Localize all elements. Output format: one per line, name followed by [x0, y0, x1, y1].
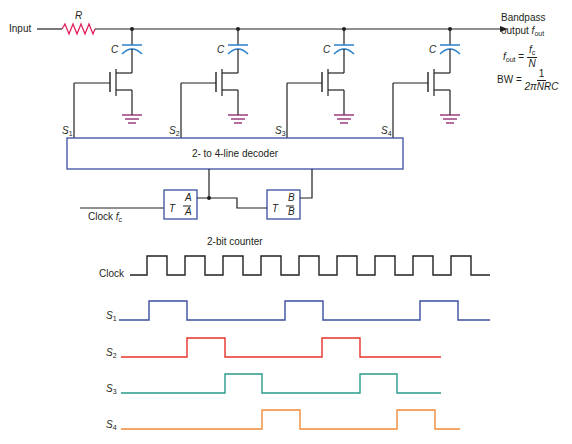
timing-diagram [119, 256, 490, 429]
ffb-t-label: T [272, 204, 278, 214]
ffa-t-label: T [169, 204, 175, 214]
input-label: Input [9, 24, 31, 34]
waveform-s1 [119, 301, 490, 320]
decoder-label: 2- to 4-line decoder [67, 149, 403, 159]
timing-label-s4: S4 [106, 420, 117, 431]
capacitor-label-3: C [323, 45, 330, 55]
stage-4 [393, 27, 460, 138]
select-label-2: S2 [169, 126, 180, 137]
waveform-clock [130, 256, 490, 275]
select-label-1: S1 [62, 126, 73, 137]
resistor-label: R [75, 11, 82, 21]
output-label-line2: output fout [501, 26, 544, 37]
b-to-decoder-wire [300, 169, 312, 198]
waveform-s3 [121, 374, 441, 393]
schematic [0, 0, 572, 444]
stage-1 [74, 27, 142, 138]
clock-input-label: Clock fc [88, 212, 122, 223]
capacitor-label-1: C [111, 45, 118, 55]
timing-label-s2: S2 [106, 348, 117, 359]
capacitor-label-2: C [217, 45, 224, 55]
waveform-s2 [121, 338, 441, 357]
bandwidth-equation: BW = 12πNRC [497, 69, 558, 92]
select-label-3: S3 [275, 126, 286, 137]
select-label-4: S4 [381, 126, 392, 137]
timing-label-s1: S1 [106, 311, 117, 322]
output-label-line1: Bandpass [501, 13, 545, 23]
ffa-q-label: A [185, 193, 192, 203]
stage-2 [181, 27, 248, 138]
counter-label: 2-bit counter [207, 237, 263, 247]
a-to-b-wire [197, 198, 267, 208]
ffb-q-label: B [288, 193, 295, 203]
fout-equation: fout = fcN [503, 45, 537, 69]
waveform-s4 [121, 410, 460, 429]
capacitor-label-4: C [429, 45, 436, 55]
timing-label-clock: Clock [99, 269, 124, 279]
ffa-qbar-label: A [185, 207, 192, 217]
stage-3 [287, 27, 354, 138]
resistor-icon [62, 24, 95, 34]
timing-label-s3: S3 [106, 384, 117, 395]
ffb-qbar-label: B [288, 207, 295, 217]
